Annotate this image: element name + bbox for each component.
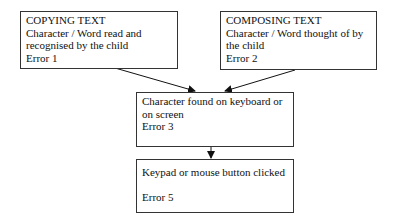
node-button-clicked: Keypad or mouse button clicked Error 5	[136, 159, 294, 213]
node-text: the child	[226, 39, 371, 52]
node-error: Error 2	[226, 52, 371, 65]
node-text: Keypad or mouse button clicked	[142, 166, 288, 179]
node-title: COPYING TEXT	[26, 14, 172, 27]
node-character-found: Character found on keyboard or on screen…	[136, 92, 294, 147]
node-error: Error 3	[142, 120, 288, 133]
node-title: COMPOSING TEXT	[226, 14, 371, 27]
node-text: Character / Word read and	[26, 27, 172, 40]
arrow-copying-to-found	[115, 68, 195, 91]
node-composing-text: COMPOSING TEXT Character / Word thought …	[220, 11, 377, 70]
arrow-composing-to-found	[225, 70, 295, 91]
node-text: Character found on keyboard or	[142, 95, 288, 108]
node-text: recognised by the child	[26, 39, 172, 52]
node-copying-text: COPYING TEXT Character / Word read and r…	[20, 11, 178, 69]
node-text: Character / Word thought of by	[226, 27, 371, 40]
node-error: Error 1	[26, 52, 172, 65]
node-text: on screen	[142, 108, 288, 121]
node-error: Error 5	[142, 191, 288, 204]
